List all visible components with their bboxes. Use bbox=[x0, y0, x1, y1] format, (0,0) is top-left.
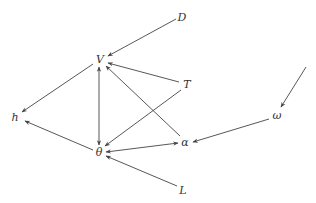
edge-T-V bbox=[108, 63, 179, 82]
edge-D-V bbox=[108, 19, 176, 56]
node-V: V bbox=[96, 54, 104, 65]
edges-layer bbox=[0, 0, 316, 203]
edge-theta-h bbox=[25, 121, 93, 150]
node-T: T bbox=[183, 79, 190, 90]
edge-omega-alpha bbox=[193, 119, 269, 142]
edge-group bbox=[22, 19, 306, 186]
node-alpha: α bbox=[181, 137, 188, 148]
edge-V-h bbox=[22, 64, 93, 112]
edge-theta-alpha bbox=[106, 143, 178, 152]
edge-L-theta bbox=[106, 156, 177, 186]
node-D: D bbox=[178, 12, 187, 23]
node-omega: ω bbox=[273, 110, 282, 121]
node-theta: θ bbox=[96, 147, 103, 158]
diagram-canvas: DVThωαθL bbox=[0, 0, 316, 203]
edge-T-theta bbox=[105, 90, 181, 146]
edge-alpha-V bbox=[106, 66, 180, 136]
node-L: L bbox=[179, 185, 186, 196]
edge-external-omega bbox=[281, 67, 306, 107]
node-h: h bbox=[11, 112, 18, 123]
